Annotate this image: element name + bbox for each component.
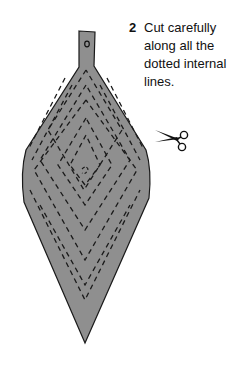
step-number: 2 — [129, 19, 136, 37]
scissors-icon — [153, 126, 193, 156]
step-text: Cut carefully along all the dotted inter… — [144, 19, 235, 91]
